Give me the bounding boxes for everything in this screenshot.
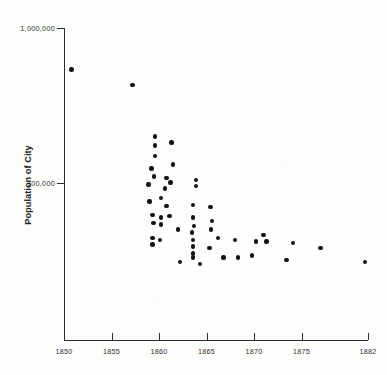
data-point xyxy=(291,241,295,245)
data-point xyxy=(178,260,182,264)
data-point xyxy=(210,219,214,223)
x-tick-label: 1870 xyxy=(245,347,262,356)
x-tick-mark xyxy=(207,333,208,340)
y-tick-mark xyxy=(57,28,65,29)
data-point xyxy=(198,262,202,266)
data-point xyxy=(264,239,268,243)
data-point xyxy=(192,224,196,228)
data-point xyxy=(169,140,173,144)
data-point xyxy=(284,258,288,262)
data-point xyxy=(191,238,195,242)
x-tick-mark xyxy=(368,333,369,340)
data-point xyxy=(176,227,180,231)
data-point xyxy=(150,236,154,240)
x-tick-label: 1850 xyxy=(55,347,72,356)
x-tick-label: 1855 xyxy=(103,347,120,356)
data-point xyxy=(164,204,168,208)
data-point xyxy=(191,203,195,207)
x-tick-mark xyxy=(159,333,160,340)
data-point xyxy=(69,67,73,71)
data-point xyxy=(158,238,162,242)
data-point xyxy=(190,230,194,234)
data-point xyxy=(153,134,157,138)
y-tick-label: 1,000,000 xyxy=(20,24,55,33)
data-point xyxy=(254,239,258,243)
data-point xyxy=(194,184,198,188)
data-point xyxy=(152,174,156,178)
x-tick-mark xyxy=(302,333,303,340)
data-point xyxy=(149,166,153,170)
y-axis-title: Population of City xyxy=(23,125,33,245)
data-point xyxy=(209,227,213,231)
x-tick-label: 1860 xyxy=(150,347,167,356)
data-point xyxy=(130,83,134,87)
data-point xyxy=(250,253,254,257)
data-point xyxy=(207,246,211,250)
data-point xyxy=(318,246,322,250)
data-point xyxy=(208,205,212,209)
x-tick-label: 1882 xyxy=(359,347,376,356)
x-tick-label: 1875 xyxy=(293,347,310,356)
data-point xyxy=(216,236,220,240)
data-point xyxy=(153,143,157,147)
paper-grain-texture xyxy=(0,0,387,375)
data-point xyxy=(159,215,163,219)
x-tick-mark xyxy=(64,333,65,340)
scatter-plot-figure: 1,000,000100,000 18501855186018651870187… xyxy=(0,0,387,375)
data-point xyxy=(221,255,225,259)
data-point xyxy=(159,222,163,226)
data-point xyxy=(146,182,150,186)
data-point xyxy=(147,199,151,203)
data-point xyxy=(150,242,154,246)
data-point xyxy=(194,178,198,182)
data-point xyxy=(163,186,167,190)
data-point xyxy=(233,238,237,242)
data-point xyxy=(191,255,195,259)
data-point xyxy=(191,215,195,219)
data-point xyxy=(159,196,163,200)
data-point xyxy=(151,221,155,225)
data-point xyxy=(150,213,154,217)
x-tick-label: 1865 xyxy=(198,347,215,356)
data-point xyxy=(153,154,157,158)
data-point xyxy=(236,255,240,259)
y-tick-mark xyxy=(57,183,65,184)
data-point xyxy=(261,233,265,237)
data-point xyxy=(167,214,171,218)
data-point xyxy=(363,260,367,264)
data-point xyxy=(171,162,175,166)
x-tick-mark xyxy=(112,333,113,340)
x-tick-mark xyxy=(254,333,255,340)
data-point xyxy=(191,244,195,248)
data-point xyxy=(168,180,172,184)
x-axis-line xyxy=(64,340,368,341)
